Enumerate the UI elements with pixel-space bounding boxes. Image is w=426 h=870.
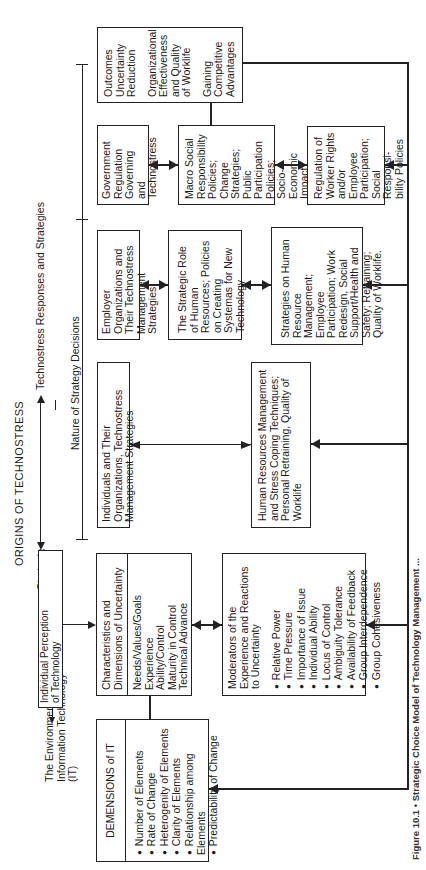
arrowhead-down-icon — [262, 280, 271, 290]
list-item: Clarity of Elements — [171, 726, 184, 855]
government-regulation-box: Government Regulation Governing and Tech… — [97, 125, 149, 205]
arrowhead-down-icon — [298, 160, 307, 170]
hr-stress-coping-box: Human Resources Management and Stress Co… — [251, 362, 311, 528]
arrowhead-up-icon — [140, 280, 149, 290]
characteristics-title: Characteristics and Dimensions of Uncert… — [97, 554, 128, 695]
arrowhead-right-icon — [37, 395, 45, 403]
arrowhead-up-icon — [311, 439, 320, 449]
arrowhead-left-icon — [49, 717, 55, 724]
individuals-hr-line — [130, 444, 251, 445]
dimensions-title: DEMENSIONS of IT — [97, 720, 126, 861]
dimensions-of-it-box: DEMENSIONS of IT Number of Elements Rate… — [96, 719, 209, 862]
arrowhead-up-icon — [149, 160, 158, 170]
arrowhead-up-icon — [275, 160, 284, 170]
arrowhead-down-icon — [159, 280, 168, 290]
macro-outcomes-connector — [210, 103, 212, 125]
list-item: Relationship among Elements — [184, 726, 208, 855]
arrowhead-up-icon — [385, 160, 394, 170]
feedback-loop-spine — [407, 62, 409, 790]
arrowhead-up-icon — [192, 620, 201, 630]
arrowhead-up-icon — [242, 280, 251, 290]
nature-bracket-end-right — [76, 64, 88, 65]
arrowhead-up-icon — [366, 620, 375, 630]
employer-organizations-box: Employer Organizations and Their Technos… — [97, 230, 140, 340]
arrowhead-up-icon — [209, 784, 218, 794]
feedback-to-hr-stress — [311, 443, 408, 445]
arrowhead-down-icon — [88, 621, 96, 629]
perception-line1: Individual Perception — [40, 555, 51, 703]
dimensions-characteristics-connector — [149, 696, 151, 719]
outcomes-item: Organizational Effectiveness and Quality… — [147, 33, 193, 97]
individuals-box: Individuals and Their Organizations, Tec… — [97, 362, 130, 528]
arrowhead-down-icon — [241, 441, 251, 449]
tick-mark — [55, 400, 56, 410]
nature-label: Nature of Strategy Decisions — [70, 316, 82, 450]
arrowhead-down-icon — [213, 620, 222, 630]
nature-bracket-mid — [76, 219, 88, 220]
worker-rights-box: Regulation of Worker Rights and/or Emplo… — [307, 126, 385, 205]
moderators-title: Moderators of the Experience and Reactio… — [227, 560, 262, 689]
list-item: Individual Ability — [308, 560, 321, 689]
arrowhead-up-icon — [130, 441, 140, 449]
list-item: Technical Advance — [178, 559, 190, 690]
nature-bracket-line — [82, 64, 83, 540]
arrowhead-up-icon — [363, 280, 372, 290]
outcomes-item: Outcomes Uncertainty Reduction — [103, 33, 138, 97]
perception-line2: of Technology — [51, 555, 62, 703]
outcomes-item: Gaining Competitive Advantages — [202, 33, 237, 97]
macro-social-responsibility-box: Macro Social Responsibility Policies; Ch… — [178, 125, 275, 205]
list-item: Rate of Change — [146, 726, 159, 855]
diagram-canvas: ORIGINS OF TECHNOSTRESS Technostress Res… — [0, 0, 426, 870]
environment-line3: (IT) — [67, 674, 79, 782]
list-item: Time Pressure — [283, 560, 296, 689]
strategic-role-box: The Strategic Role of Human Resources; P… — [168, 230, 242, 340]
feedback-to-dimensions — [209, 788, 409, 790]
moderators-box: Moderators of the Experience and Reactio… — [222, 553, 366, 696]
strategies-hr-box: Strategies on Human Resource Management;… — [271, 227, 363, 345]
outcomes-box: Outcomes Uncertainty Reduction Organizat… — [97, 27, 243, 103]
feedback-loop-top — [243, 62, 409, 64]
characteristics-list: Needs/Values/Goals Experience Ability/Co… — [128, 554, 194, 695]
diagram-title: ORIGINS OF TECHNOSTRESS — [14, 401, 26, 566]
list-item: Ambiguity Tolerance — [333, 560, 346, 689]
nature-bracket-end-left — [76, 539, 88, 540]
responses-label: Technostress Responses and Strategies — [35, 202, 47, 390]
figure-caption: Figure 10.1 • Strategic Choice Model of … — [410, 558, 421, 860]
list-item: Ability/Control — [155, 559, 167, 690]
individual-perception-box: Individual Perception of Technology — [38, 550, 63, 708]
arrowhead-down-icon — [169, 160, 178, 170]
characteristics-box: Characteristics and Dimensions of Uncert… — [96, 553, 192, 696]
list-item: Needs/Values/Goals — [132, 559, 144, 690]
values-responses-arrow-line — [40, 400, 41, 545]
